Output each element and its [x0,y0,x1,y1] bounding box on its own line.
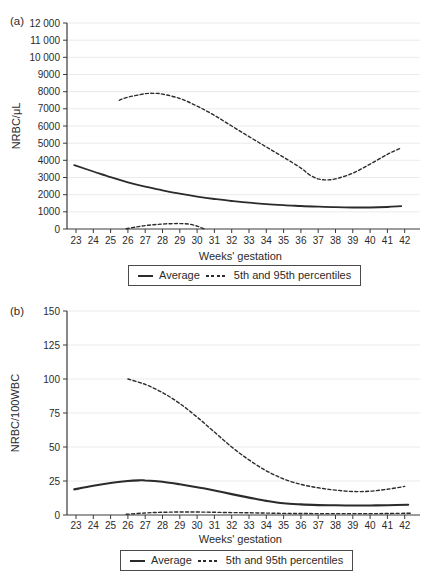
y-axis-title: NRBC/100WBC [9,374,21,452]
average-solid-line-icon [138,275,153,277]
series-average [74,165,401,207]
x-tick-label: 42 [399,520,411,531]
legend-chart-b: Average 5th and 95th percentiles [120,550,353,571]
x-tick-label: 36 [295,235,307,246]
x-tick-label: 41 [382,235,394,246]
legend-percentiles-label: 5th and 95th percentiles [226,554,343,567]
x-tick-label: 33 [243,520,255,531]
series-average [74,480,408,505]
x-tick-label: 28 [157,520,169,531]
x-tick-label: 24 [88,235,100,246]
y-tick-label: 0 [54,224,60,235]
nrbc-reference-charts-figure: 010002000300040005000600070008000900010 … [0,0,424,587]
series-5th-percentile [126,224,204,229]
x-tick-label: 37 [313,235,325,246]
x-tick-label: 30 [192,520,204,531]
charts-canvas: 010002000300040005000600070008000900010 … [0,0,424,587]
x-tick-label: 25 [105,235,117,246]
y-tick-label: 6000 [38,121,61,132]
x-tick-label: 25 [105,520,117,531]
average-solid-line-icon [130,560,145,562]
x-tick-label: 32 [226,235,238,246]
x-tick-label: 32 [226,520,238,531]
panel-label: (a) [10,15,24,27]
y-tick-label: 5000 [38,138,61,149]
legend-average-label: Average [159,269,200,282]
x-tick-label: 29 [174,520,186,531]
x-axis-title: Weeks' gestation [199,250,282,262]
y-tick-label: 8000 [38,86,61,97]
y-tick-label: 9000 [38,69,61,80]
y-tick-label: 150 [43,306,60,317]
x-tick-label: 38 [330,520,342,531]
x-tick-label: 27 [140,235,152,246]
x-tick-label: 29 [174,235,186,246]
y-tick-label: 11 000 [30,35,60,46]
x-tick-label: 24 [88,520,100,531]
x-tick-label: 31 [209,235,221,246]
y-axis-title: NRBC/μL [10,103,22,150]
panel-label: (b) [10,305,24,317]
series-5th-percentile [126,512,411,514]
y-tick-label: 4000 [38,155,61,166]
series-95th-percentile [128,379,405,492]
y-tick-label: 12 000 [29,18,60,29]
x-tick-label: 41 [382,520,394,531]
x-tick-label: 37 [313,520,325,531]
chart-panel-b: 0255075100125150232425262728293031323334… [9,305,420,545]
y-tick-label: 25 [49,476,61,487]
x-tick-label: 40 [365,520,377,531]
x-tick-label: 35 [278,520,290,531]
x-tick-label: 39 [347,520,359,531]
legend-chart-a: Average 5th and 95th percentiles [128,265,361,286]
y-tick-label: 50 [49,442,61,453]
y-tick-label: 0 [54,510,60,521]
y-tick-label: 3000 [38,172,61,183]
chart-panel-a: 010002000300040005000600070008000900010 … [10,15,420,262]
x-tick-label: 27 [140,520,152,531]
legend-percentiles-label: 5th and 95th percentiles [234,269,351,282]
axes [63,311,420,519]
x-axis-title: Weeks' gestation [199,533,282,545]
x-tick-label: 26 [122,235,134,246]
x-tick-label: 30 [192,235,204,246]
x-tick-label: 38 [330,235,342,246]
x-tick-label: 36 [295,520,307,531]
y-tick-label: 2000 [38,189,61,200]
x-tick-label: 31 [209,520,221,531]
x-tick-label: 23 [70,520,82,531]
x-tick-label: 28 [157,235,169,246]
x-tick-label: 35 [278,235,290,246]
y-tick-label: 75 [49,408,61,419]
y-tick-label: 10 000 [29,52,60,63]
x-tick-label: 34 [261,520,273,531]
series-95th-percentile [119,93,401,180]
x-tick-label: 40 [365,235,377,246]
x-tick-label: 34 [261,235,273,246]
percentiles-dashed-line-icon [206,275,228,277]
gridlines [67,23,420,212]
y-tick-label: 125 [43,340,60,351]
x-tick-label: 26 [122,520,134,531]
y-tick-label: 100 [43,374,60,385]
x-tick-label: 42 [399,235,411,246]
x-tick-label: 33 [243,235,255,246]
y-tick-label: 1000 [38,206,61,217]
x-tick-label: 23 [70,235,82,246]
y-tick-label: 7000 [38,103,61,114]
x-tick-label: 39 [347,235,359,246]
legend-average-label: Average [151,554,192,567]
percentiles-dashed-line-icon [198,560,220,562]
